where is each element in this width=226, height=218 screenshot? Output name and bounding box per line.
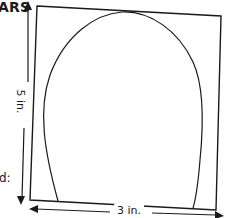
arrow-right-icon <box>215 211 224 218</box>
heading-fragment: ARS <box>0 0 30 15</box>
width-label: 3 in. <box>114 204 144 217</box>
arrow-left-icon <box>29 205 38 213</box>
template-diagram <box>0 0 226 218</box>
diagram-canvas <box>0 0 226 218</box>
arrow-down-icon <box>17 196 25 205</box>
height-label: 5 in. <box>14 87 27 115</box>
arch-shape <box>44 12 203 208</box>
rectangle-frame <box>30 6 221 210</box>
side-text-fragment: d: <box>0 171 11 185</box>
